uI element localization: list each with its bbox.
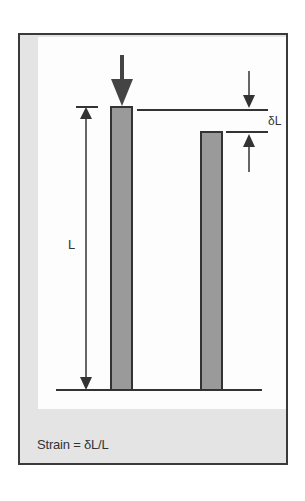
strain-formula-caption: Strain = δL/L	[37, 437, 108, 452]
strain-diagram	[0, 0, 305, 501]
arrow-up-icon	[80, 107, 92, 119]
delta-arrow-up-icon	[243, 134, 255, 172]
length-label: L	[68, 237, 75, 252]
delta-length-label: δL	[268, 114, 281, 128]
length-dimension	[76, 107, 98, 390]
compressed-bar	[201, 132, 222, 390]
original-bar	[111, 107, 132, 390]
load-arrow-icon	[111, 55, 133, 106]
delta-arrow-down-icon	[243, 71, 255, 108]
arrow-down-icon	[80, 377, 92, 390]
